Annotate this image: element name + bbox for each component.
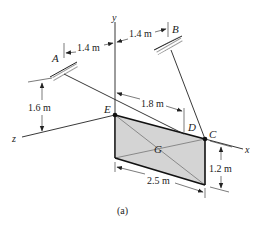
point-c-dot [203,137,208,142]
dim-plate-length-label: 2.5 m [147,175,170,186]
dim-a-height-label: 1.6 m [28,102,51,113]
point-c-label: C [209,128,217,140]
point-a-label: A [51,52,59,64]
point-d-label: D [187,121,196,133]
support-b: B [154,23,183,55]
dimension-plate-height: 1.2 m [209,141,232,192]
point-e-label: E [103,103,111,115]
statics-diagram: y z x A B 1.4 m [0,0,263,229]
dim-a-offset-label: 1.4 m [77,42,100,53]
point-b-label: B [172,23,179,35]
point-e-dot [113,113,118,118]
z-axis: z [11,115,115,144]
y-axis-label: y [111,12,117,23]
x-axis-label: x [244,144,250,155]
dim-plate-height-label: 1.2 m [209,163,232,174]
dim-b-offset-label: 1.4 m [129,28,152,39]
dimension-a-offset: 1.4 m [64,42,113,58]
dimension-b-offset: 1.4 m [117,22,168,42]
z-axis-label: z [11,133,16,144]
dimension-a-height: 1.6 m [28,78,52,131]
figure-caption: (a) [117,205,128,217]
point-g-label: G [154,143,162,155]
dim-d-distance-label: 1.8 m [141,98,164,109]
